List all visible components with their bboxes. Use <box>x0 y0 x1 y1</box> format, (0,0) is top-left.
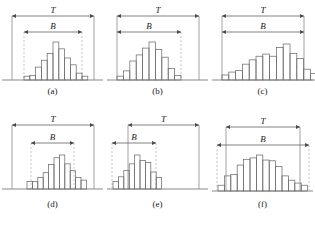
histogram-bar <box>149 42 155 80</box>
panel-c-caption: (c) <box>210 86 315 96</box>
T-span-label: T <box>260 116 266 126</box>
histogram-bar <box>304 69 311 80</box>
histogram-bar <box>145 162 150 189</box>
histogram-bar <box>222 75 229 80</box>
histogram-bar <box>310 74 315 80</box>
histogram-bar <box>242 64 249 80</box>
panel-a: TB (a) <box>0 0 105 107</box>
histogram-bar <box>82 76 88 80</box>
histogram-bar <box>70 65 76 80</box>
histogram-bar <box>123 71 129 80</box>
histogram-bar <box>297 58 304 80</box>
T-span-label: T <box>260 5 266 15</box>
T-span-arrowhead-right <box>90 123 94 127</box>
histogram-bar <box>32 182 37 189</box>
histogram-bar <box>36 67 42 80</box>
histogram-bar <box>65 164 70 189</box>
histogram-bar <box>269 161 275 191</box>
B-span-label: B <box>146 21 152 31</box>
histogram-bar <box>81 180 86 189</box>
histogram-bars <box>113 155 162 189</box>
histogram-bar <box>249 60 256 80</box>
B-span-arrowhead-left <box>24 30 28 34</box>
histogram-bar <box>118 177 123 189</box>
histogram-bar <box>129 164 134 189</box>
panel-e: TB (e) <box>105 107 210 215</box>
histogram-bar <box>53 42 59 80</box>
histogram-bar <box>224 176 230 191</box>
panel-d-caption: (d) <box>0 199 105 209</box>
T-span-arrowhead-left <box>117 14 121 18</box>
histogram-bar <box>218 185 224 191</box>
histogram-bars <box>24 42 88 80</box>
histogram-bar <box>162 57 168 80</box>
B-span-arrowhead-left <box>117 30 121 34</box>
B-span-arrowhead-right <box>300 30 304 34</box>
histogram-bar <box>47 53 53 80</box>
histogram-bar <box>113 182 118 189</box>
histogram-bar <box>140 160 145 189</box>
histogram-bar <box>236 71 243 80</box>
histogram-bar <box>27 182 32 189</box>
T-span-arrowhead-right <box>300 14 304 18</box>
histogram-bar <box>76 177 81 189</box>
panel-e-caption: (e) <box>105 199 210 209</box>
histogram-bar <box>282 176 288 191</box>
B-span-arrowhead-right <box>70 141 74 145</box>
panel-b-caption: (b) <box>105 86 210 96</box>
T-span-label: T <box>50 114 56 124</box>
histogram-bar <box>59 49 65 80</box>
histogram-bar <box>175 75 181 80</box>
histogram-bar <box>136 55 142 80</box>
histogram-bar <box>231 174 237 191</box>
B-span-arrowhead-left <box>217 143 221 147</box>
T-span-arrowhead-left <box>12 14 16 18</box>
histogram-bar <box>256 56 263 80</box>
T-span-arrowhead-right <box>195 123 199 127</box>
T-span-label: T <box>50 5 56 15</box>
histogram-bar <box>250 158 256 191</box>
B-span-arrowhead-right <box>305 143 309 147</box>
B-span-label: B <box>260 134 266 144</box>
T-span-label: T <box>161 114 167 124</box>
histogram-bar <box>135 155 140 189</box>
panel-d: TB (d) <box>0 107 105 215</box>
histogram-bar <box>283 44 290 80</box>
panel-c: TB (c) <box>210 0 315 107</box>
histogram-bar <box>70 171 75 189</box>
histogram-bar <box>38 177 43 189</box>
histogram-bars <box>27 155 86 189</box>
T-span-arrowhead-right <box>296 125 300 129</box>
histogram-bar <box>59 155 64 189</box>
histogram-bar <box>155 50 161 80</box>
panel-b: TB (b) <box>105 0 210 107</box>
panel-f-caption: (f) <box>210 199 315 209</box>
histogram-bar <box>237 165 243 191</box>
histogram-bar <box>276 48 283 80</box>
panel-a-caption: (a) <box>0 86 105 96</box>
histogram-bar <box>143 48 149 80</box>
histogram-bar <box>54 158 59 189</box>
histogram-bar <box>270 56 277 80</box>
histogram-bar <box>256 155 262 191</box>
histogram-bar <box>156 177 161 189</box>
T-span-arrowhead-left <box>128 123 132 127</box>
B-span-arrowhead-left <box>31 141 35 145</box>
histogram-bar <box>76 73 82 80</box>
B-span-arrowhead-right <box>177 30 181 34</box>
T-span-arrowhead-right <box>90 14 94 18</box>
histogram-bar <box>24 76 30 80</box>
T-span-arrowhead-left <box>222 14 226 18</box>
T-span-arrowhead-left <box>226 125 230 129</box>
histogram-bar <box>30 75 36 80</box>
histogram-bar <box>244 159 250 191</box>
histogram-bars <box>218 155 308 191</box>
T-span-label: T <box>155 5 161 15</box>
B-span-arrowhead-left <box>112 141 116 145</box>
histogram-bar <box>41 60 47 80</box>
histogram-bar <box>229 72 236 80</box>
histogram-bar <box>290 53 297 80</box>
histogram-bar <box>43 173 48 189</box>
panel-f: TB (f) <box>210 107 315 215</box>
histogram-bar <box>263 160 269 191</box>
